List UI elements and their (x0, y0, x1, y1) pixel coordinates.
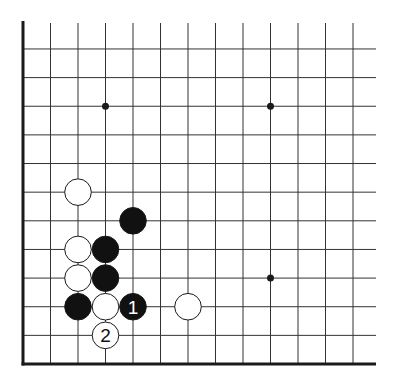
black-stone (65, 293, 92, 320)
black-stone-disc (92, 236, 119, 263)
star-point (267, 103, 274, 110)
white-stone (175, 293, 202, 320)
white-stone-disc (175, 293, 202, 320)
move-number-label: 1 (128, 297, 139, 318)
white-stone-disc (65, 179, 92, 206)
black-stone-disc (65, 293, 92, 320)
move-number-label: 2 (100, 325, 111, 346)
white-stone: 2 (92, 322, 119, 349)
white-stone-disc (65, 236, 92, 263)
white-stone (92, 293, 119, 320)
star-point (267, 275, 274, 282)
white-stone-disc (65, 265, 92, 292)
black-stone (92, 265, 119, 292)
star-point (102, 103, 109, 110)
white-stone (65, 236, 92, 263)
white-stone-disc (92, 293, 119, 320)
white-stone (65, 179, 92, 206)
black-stone (92, 236, 119, 263)
go-board: 12 (0, 0, 396, 388)
black-stone-disc (120, 208, 147, 235)
black-stone-disc (92, 265, 119, 292)
white-stone (65, 265, 92, 292)
black-stone (120, 208, 147, 235)
black-stone: 1 (120, 293, 147, 320)
